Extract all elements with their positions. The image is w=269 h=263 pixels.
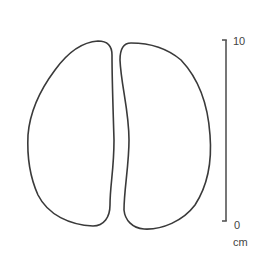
scale-bottom-label: 0 [234,220,240,231]
right-outline [120,43,210,229]
scale-top-label: 10 [233,36,245,47]
scale-unit-label: cm [233,237,248,248]
figure: 10 0 cm [0,0,269,263]
left-outline [28,41,114,226]
scale-bar [222,40,227,221]
outline-drawing [0,0,269,263]
